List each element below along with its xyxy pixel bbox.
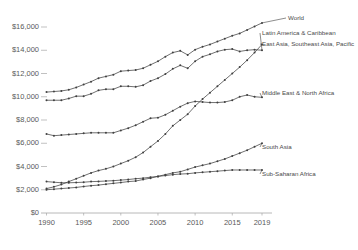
data-point-marker	[187, 67, 189, 69]
data-point-marker	[127, 70, 129, 72]
data-point-marker	[75, 95, 77, 97]
data-point-marker	[105, 75, 107, 77]
y-axis-tick-label: $6,000	[16, 138, 39, 147]
data-point-marker	[127, 181, 129, 183]
data-point-marker	[135, 156, 137, 158]
data-point-marker	[98, 77, 100, 79]
data-point-marker	[202, 101, 204, 103]
data-point-marker	[90, 172, 92, 174]
data-point-marker	[202, 56, 204, 58]
series-label: South Asia	[262, 143, 292, 150]
data-point-marker	[120, 182, 122, 184]
data-point-marker	[83, 175, 85, 177]
y-axis-tick-label: $8,000	[16, 115, 39, 124]
data-point-marker	[157, 140, 159, 142]
data-point-marker	[75, 186, 77, 188]
y-axis-tick-label: $4,000	[16, 162, 39, 171]
data-point-marker	[187, 54, 189, 56]
data-point-marker	[202, 164, 204, 166]
data-point-marker	[172, 110, 174, 112]
data-point-marker	[194, 166, 196, 168]
data-point-marker	[75, 178, 77, 180]
data-point-marker	[246, 59, 248, 61]
data-point-marker	[68, 182, 70, 184]
data-point-marker	[224, 79, 226, 81]
data-point-marker	[60, 184, 62, 186]
data-point-marker	[46, 133, 48, 135]
data-point-marker	[112, 74, 114, 76]
data-point-marker	[75, 86, 77, 88]
data-point-marker	[98, 132, 100, 134]
data-point-marker	[216, 50, 218, 52]
data-point-marker	[90, 181, 92, 183]
data-point-marker	[246, 169, 248, 171]
data-point-marker	[60, 99, 62, 101]
data-point-marker	[98, 170, 100, 172]
data-point-marker	[60, 188, 62, 190]
data-point-marker	[142, 177, 144, 179]
x-axis-tick-label: 1995	[64, 218, 104, 227]
data-point-marker	[194, 49, 196, 51]
data-point-marker	[157, 77, 159, 79]
series-label: World	[288, 14, 304, 21]
data-point-marker	[46, 181, 48, 183]
data-point-marker	[239, 169, 241, 171]
data-point-marker	[120, 129, 122, 131]
data-point-marker	[90, 81, 92, 83]
data-point-marker	[231, 99, 233, 101]
data-point-marker	[187, 173, 189, 175]
x-axis-tick-label: 2019	[242, 218, 282, 227]
data-point-marker	[53, 181, 55, 183]
data-point-marker	[53, 188, 55, 190]
data-point-marker	[135, 69, 137, 71]
data-point-marker	[172, 172, 174, 174]
data-point-marker	[239, 32, 241, 34]
y-axis-tick-label: $14,000	[12, 45, 39, 54]
data-point-marker	[246, 49, 248, 51]
data-point-marker	[224, 170, 226, 172]
data-point-marker	[105, 180, 107, 182]
data-point-marker	[209, 102, 211, 104]
data-point-marker	[68, 134, 70, 136]
data-point-marker	[127, 127, 129, 129]
data-point-marker	[105, 132, 107, 134]
data-point-marker	[83, 186, 85, 188]
data-point-marker	[172, 68, 174, 70]
data-point-marker	[105, 168, 107, 170]
data-point-marker	[157, 117, 159, 119]
data-point-marker	[254, 25, 256, 27]
data-point-marker	[216, 160, 218, 162]
data-point-marker	[83, 84, 85, 86]
data-point-marker	[120, 70, 122, 72]
data-point-marker	[202, 98, 204, 100]
series-line	[47, 95, 263, 136]
data-point-marker	[231, 73, 233, 75]
data-point-marker	[142, 84, 144, 86]
data-point-marker	[68, 89, 70, 91]
data-point-marker	[135, 124, 137, 126]
x-axis-tick-label: 1990	[27, 218, 67, 227]
data-point-marker	[172, 174, 174, 176]
data-point-marker	[46, 91, 48, 93]
data-point-marker	[179, 119, 181, 121]
data-point-marker	[53, 186, 55, 188]
series-label: Sub-Saharan Africa	[262, 170, 316, 177]
data-point-marker	[150, 117, 152, 119]
data-point-marker	[68, 187, 70, 189]
data-point-marker	[239, 152, 241, 154]
data-point-marker	[53, 99, 55, 101]
data-point-marker	[179, 50, 181, 52]
data-point-marker	[254, 169, 256, 171]
data-point-marker	[231, 35, 233, 37]
data-point-marker	[179, 173, 181, 175]
line-chart: $0$2,000$4,000$6,000$8,000$10,000$12,000…	[0, 0, 358, 250]
data-point-marker	[246, 94, 248, 96]
data-point-marker	[120, 179, 122, 181]
y-axis-tick-label: $16,000	[12, 22, 39, 31]
data-point-marker	[46, 189, 48, 191]
data-point-marker	[216, 85, 218, 87]
data-point-marker	[60, 90, 62, 92]
data-point-marker	[83, 181, 85, 183]
chart-plot-area	[0, 0, 358, 250]
data-point-marker	[98, 180, 100, 182]
